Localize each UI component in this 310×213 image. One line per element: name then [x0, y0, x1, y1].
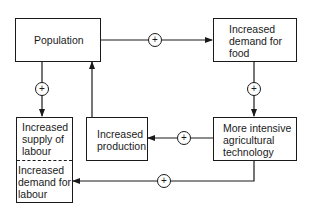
node-increased-demand-for-food: Increased demand for food [213, 18, 297, 62]
node-labour-demand-line-1: Increased [18, 164, 64, 176]
node-agri-tech-line-1: More intensive [223, 122, 291, 134]
node-population-label: Population [34, 34, 84, 46]
node-food-demand-line-3: food [229, 47, 249, 59]
node-production-line-1: Increased [97, 128, 143, 140]
node-food-demand-line-1: Increased [229, 23, 275, 35]
plus-sign-population-labour: + [35, 82, 49, 96]
plus-sign-population-food: + [148, 33, 162, 47]
node-population: Population [15, 18, 101, 62]
dashed-divider [17, 160, 72, 161]
plus-sign-food-agritech: + [247, 82, 261, 96]
node-food-demand-line-2: demand for [229, 35, 282, 47]
node-labour: Increased supply of labour Increased dem… [16, 117, 73, 203]
node-production-line-2: production [97, 140, 146, 152]
node-labour-demand-line-2: demand for [18, 176, 71, 188]
node-labour-supply-line-3: labour [22, 145, 51, 157]
node-more-intensive-agricultural-technology: More intensive agricultural technology [213, 117, 297, 161]
node-agri-tech-line-2: agricultural [223, 134, 274, 146]
plus-sign-agritech-labour-demand: + [157, 174, 171, 188]
node-increased-production: Increased production [86, 117, 148, 161]
node-labour-supply-line-2: supply of [22, 133, 64, 145]
plus-sign-agritech-production: + [177, 131, 191, 145]
node-labour-demand-line-3: labour [18, 188, 47, 200]
node-labour-supply-line-1: Increased [22, 121, 68, 133]
node-agri-tech-line-3: technology [223, 146, 274, 158]
